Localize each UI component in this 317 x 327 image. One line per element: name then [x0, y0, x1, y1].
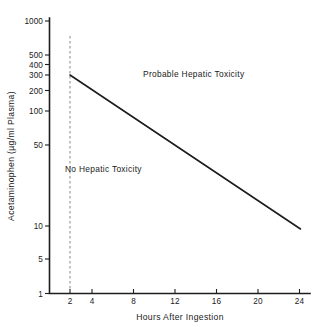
x-tick-label-2: 2	[68, 297, 73, 306]
y-tick-label-50: 50	[34, 141, 44, 150]
y-tick-label-10: 10	[34, 222, 44, 231]
y-tick-label-1: 1	[38, 290, 43, 299]
x-tick-label-8: 8	[131, 297, 136, 306]
region-label-probable-hepatic-toxicity: Probable Hepatic Toxicity	[143, 69, 245, 79]
x-tick-label-4: 4	[90, 297, 95, 306]
x-tick-label-20: 20	[253, 297, 263, 306]
x-tick-label-16: 16	[212, 297, 222, 306]
y-tick-label-200: 200	[29, 87, 43, 96]
x-tick-label-24: 24	[295, 297, 305, 306]
y-axis-title: Acetaminophen (µg/ml Plasma)	[6, 91, 16, 221]
y-tick-label-1000: 1000	[24, 17, 43, 26]
y-tick-label-500: 500	[29, 51, 43, 60]
y-tick-label-5: 5	[38, 255, 43, 264]
x-axis-title: Hours After Ingestion	[136, 312, 224, 322]
y-tick-label-400: 400	[29, 61, 43, 70]
chart-background	[0, 0, 317, 327]
x-tick-label-12: 12	[170, 297, 180, 306]
region-label-no-hepatic-toxicity: No Hepatic Toxicity	[65, 164, 142, 174]
y-tick-label-300: 300	[29, 71, 43, 80]
chart-canvas: 1000 500 400 300 200 100 50 10 5 1 2 4 8…	[0, 0, 317, 327]
nomogram-chart: 1000 500 400 300 200 100 50 10 5 1 2 4 8…	[0, 0, 317, 327]
y-tick-label-100: 100	[29, 107, 43, 116]
